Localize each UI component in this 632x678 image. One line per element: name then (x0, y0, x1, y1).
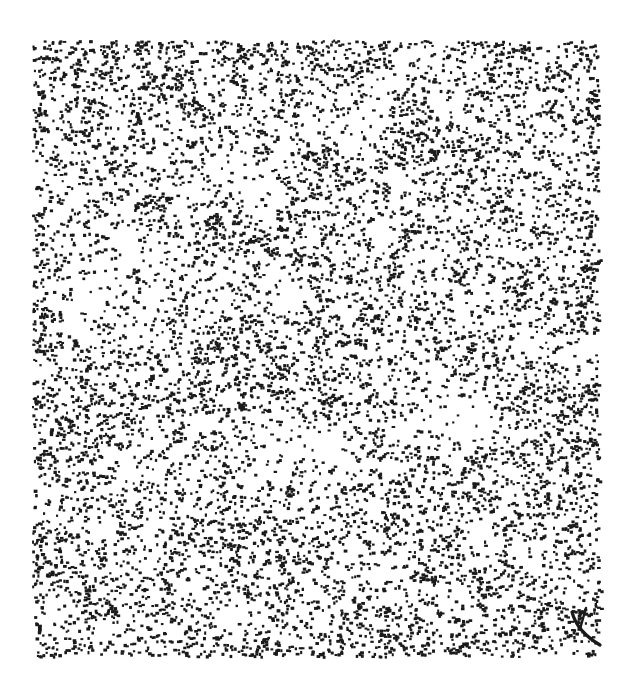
page-root (0, 0, 632, 678)
stipple-dot-canvas (0, 0, 632, 678)
stipple-figure (0, 0, 632, 678)
